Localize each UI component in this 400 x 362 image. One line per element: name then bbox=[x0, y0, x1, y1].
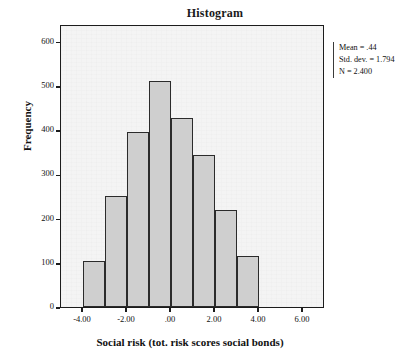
x-tick-label: 6.00 bbox=[295, 314, 310, 324]
x-tick-mark bbox=[301, 308, 303, 312]
statistics-annotation: Mean = .44 Std. dev. = 1.794 N = 2.400 bbox=[333, 42, 395, 78]
chart-title: Histogram bbox=[0, 6, 400, 21]
x-tick-mark bbox=[81, 308, 83, 312]
histogram-bar bbox=[127, 132, 149, 307]
x-tick-label: .00 bbox=[165, 314, 176, 324]
x-axis: -4.00-2.00.002.004.006.00 bbox=[60, 308, 324, 338]
histogram-bar bbox=[237, 256, 259, 307]
x-tick-label: 4.00 bbox=[251, 314, 266, 324]
histogram-bar bbox=[171, 118, 193, 307]
y-tick-label: 0 bbox=[50, 301, 54, 311]
y-tick-label: 300 bbox=[41, 168, 54, 178]
histogram-bar bbox=[215, 210, 237, 307]
histogram-bar bbox=[193, 155, 215, 307]
x-tick-mark bbox=[257, 308, 259, 312]
x-tick-mark bbox=[125, 308, 127, 312]
histogram-bar bbox=[149, 81, 171, 307]
stat-n: N = 2.400 bbox=[339, 66, 395, 78]
y-axis: 0100200300400500600 bbox=[0, 25, 60, 308]
x-axis-title: Social risk (tot. risk scores social bon… bbox=[40, 336, 340, 348]
y-tick-label: 600 bbox=[41, 36, 54, 46]
histogram-chart: Histogram Frequency 0100200300400500600 … bbox=[0, 0, 400, 362]
plot-area bbox=[60, 25, 324, 308]
y-tick-label: 100 bbox=[41, 257, 54, 267]
stat-std-dev: Std. dev. = 1.794 bbox=[339, 54, 395, 66]
x-tick-mark bbox=[213, 308, 215, 312]
x-tick-label: -4.00 bbox=[73, 314, 91, 324]
bar-series bbox=[61, 26, 323, 307]
x-tick-label: 2.00 bbox=[207, 314, 222, 324]
histogram-bar bbox=[83, 261, 105, 307]
x-tick-label: -2.00 bbox=[117, 314, 135, 324]
x-tick-mark bbox=[169, 308, 171, 312]
y-tick-label: 500 bbox=[41, 80, 54, 90]
histogram-bar bbox=[105, 196, 127, 307]
y-tick-label: 200 bbox=[41, 213, 54, 223]
stat-mean: Mean = .44 bbox=[339, 42, 395, 54]
y-tick-label: 400 bbox=[41, 124, 54, 134]
